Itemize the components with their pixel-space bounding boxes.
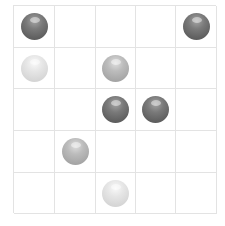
board-cell-r2-c1[interactable] [55,89,96,131]
board-cell-r3-c4[interactable] [176,131,217,173]
board-cell-r0-c2[interactable] [96,6,136,48]
game-board [13,5,216,213]
board-cell-r2-c2[interactable] [96,89,136,131]
dark-ball-icon[interactable] [183,13,210,40]
dark-ball-icon[interactable] [21,13,48,40]
board-cell-r0-c3[interactable] [136,6,176,48]
board-cell-r1-c3[interactable] [136,48,176,89]
board-cell-r2-c3[interactable] [136,89,176,131]
board-cell-r2-c4[interactable] [176,89,217,131]
board-cell-r4-c0[interactable] [14,173,55,214]
board-cell-r3-c3[interactable] [136,131,176,173]
board-cell-r0-c4[interactable] [176,6,217,48]
dark-ball-icon[interactable] [102,96,129,123]
board-cell-r1-c0[interactable] [14,48,55,89]
medium-ball-icon[interactable] [62,138,89,165]
board-cell-r2-c0[interactable] [14,89,55,131]
board-cell-r0-c0[interactable] [14,6,55,48]
board-cell-r1-c2[interactable] [96,48,136,89]
board-cell-r4-c2[interactable] [96,173,136,214]
board-cell-r3-c2[interactable] [96,131,136,173]
medium-ball-icon[interactable] [102,55,129,82]
board-cell-r4-c1[interactable] [55,173,96,214]
board-cell-r4-c4[interactable] [176,173,217,214]
light-ball-icon[interactable] [21,55,48,82]
board-cell-r3-c0[interactable] [14,131,55,173]
board-cell-r0-c1[interactable] [55,6,96,48]
light-ball-icon[interactable] [102,180,129,207]
board-cell-r1-c1[interactable] [55,48,96,89]
board-cell-r4-c3[interactable] [136,173,176,214]
dark-ball-icon[interactable] [142,96,169,123]
board-cell-r1-c4[interactable] [176,48,217,89]
board-cell-r3-c1[interactable] [55,131,96,173]
